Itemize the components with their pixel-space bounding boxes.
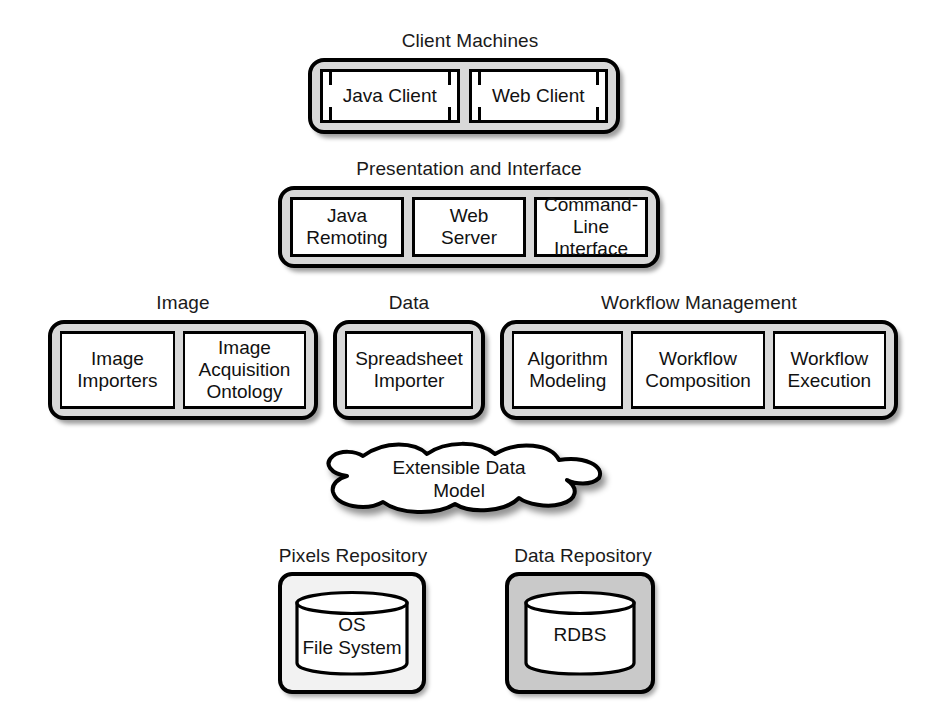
client-web[interactable]: Web Client [469,69,609,123]
database-cylinder-icon-pixels [294,590,410,676]
caption-data: Data [333,292,485,314]
module-workflow-execution[interactable]: Workflow Execution [773,331,886,409]
extensible-data-model-cloud: Extensible Data Model [303,442,615,522]
caption-presentation-and-interface: Presentation and Interface [278,158,660,180]
caption-image: Image [48,292,318,314]
client-java-label: Java Client [329,85,451,107]
repo-pixels-repository[interactable]: OS File System [278,572,426,694]
caption-client-machines: Client Machines [300,30,640,52]
module-image-importers[interactable]: Image Importers [60,331,175,409]
client-java[interactable]: Java Client [320,69,460,123]
module-workflow-composition[interactable]: Workflow Composition [631,331,764,409]
caption-data-repository: Data Repository [488,545,678,567]
architecture-diagram: Client Machines Java Client Web Client P… [0,0,944,723]
module-spreadsheet-importer[interactable]: Spreadsheet Importer [345,331,473,409]
tier-workflow-management: Algorithm Modeling Workflow Composition … [500,320,898,420]
module-command-line-interface[interactable]: Command- Line Interface [534,197,648,257]
caption-workflow-management: Workflow Management [500,292,898,314]
module-web-server[interactable]: Web Server [412,197,526,257]
tier-presentation-and-interface: Java Remoting Web Server Command- Line I… [278,186,660,268]
module-java-remoting[interactable]: Java Remoting [290,197,404,257]
tier-data: Spreadsheet Importer [333,320,485,420]
client-web-label: Web Client [478,85,599,107]
module-image-acquisition-ontology[interactable]: Image Acquisition Ontology [183,331,306,409]
module-algorithm-modeling[interactable]: Algorithm Modeling [512,331,623,409]
cloud-icon [303,442,615,522]
tier-client-machines: Java Client Web Client [308,58,620,134]
caption-pixels-repository: Pixels Repository [258,545,448,567]
database-cylinder-icon-rdbs [523,590,637,676]
repo-data-repository[interactable]: RDBS [505,572,655,694]
tier-image: Image Importers Image Acquisition Ontolo… [48,320,318,420]
